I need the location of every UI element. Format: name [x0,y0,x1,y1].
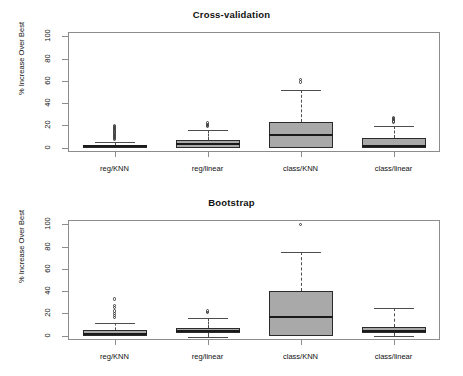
y-axis-tick-label: 0 [43,322,52,348]
y-axis-tick-label: 100 [43,211,52,237]
y-axis-tick [62,291,68,292]
x-axis-tick [115,152,116,157]
whisker-cap-upper [281,90,321,91]
plot-frame-cross-validation [68,32,440,152]
whisker-upper [301,90,302,122]
whisker-cap-upper [374,126,414,127]
y-axis-tick-label: 100 [43,23,52,49]
x-axis-label-class-linear: class/linear [349,164,439,173]
outlier-point [206,121,209,124]
outlier-point [113,309,116,312]
x-axis-label-reg-linear: reg/linear [163,352,253,361]
whisker-cap-upper [188,318,228,319]
y-axis-tick [62,148,68,149]
whisker-cap-lower [374,336,414,337]
whisker-cap-upper [95,142,135,143]
panel-cross-validation: Cross-validation % Increase Over Best 02… [0,0,463,188]
y-axis-tick [62,81,68,82]
x-axis-label-reg-linear: reg/linear [163,164,253,173]
x-axis-tick [208,340,209,345]
median-line [362,145,426,147]
x-axis-label-class-linear: class/linear [349,352,439,361]
x-axis-tick [115,340,116,345]
y-axis-tick [62,36,68,37]
y-axis-tick-label: 0 [43,134,52,160]
y-axis-tick [62,59,68,60]
plot-frame-bootstrap [68,220,440,340]
boxplot-figure: Cross-validation % Increase Over Best 02… [0,0,463,376]
whisker-upper [394,126,395,137]
median-line [269,134,333,136]
whisker-cap-upper [95,323,135,324]
x-axis-tick [208,152,209,157]
y-axis-tick-label: 40 [43,278,52,304]
box-iqr [269,291,333,335]
whisker-upper [208,318,209,328]
y-axis-label-bootstrap: % Increase Over Best [17,187,26,307]
panel-title-bootstrap: Bootstrap [0,197,463,208]
whisker-upper [208,130,209,140]
median-line [83,145,147,147]
y-axis-label-cross-validation: % Increase Over Best [17,0,26,119]
y-axis-tick [62,336,68,337]
y-axis-tick-label: 80 [43,45,52,71]
y-axis-tick [62,269,68,270]
whisker-cap-upper [188,130,228,131]
median-line [362,330,426,332]
y-axis-tick-label: 40 [43,90,52,116]
y-axis-tick-label: 20 [43,300,52,326]
whisker-cap-upper [281,252,321,253]
x-axis-label-reg-knn: reg/KNN [70,352,160,361]
x-axis-tick [394,340,395,345]
outlier-point [113,297,116,300]
x-axis-label-class-knn: class/KNN [256,352,346,361]
y-axis-tick [62,247,68,248]
x-axis-label-class-knn: class/KNN [256,164,346,173]
x-axis-label-reg-knn: reg/KNN [70,164,160,173]
panel-title-cross-validation: Cross-validation [0,9,463,20]
x-axis-tick [394,152,395,157]
y-axis-tick [62,125,68,126]
median-line [269,316,333,318]
median-line [176,330,240,332]
y-axis-tick [62,224,68,225]
x-axis-tick [301,152,302,157]
y-axis-tick-label: 20 [43,112,52,138]
y-axis-tick [62,313,68,314]
median-line [83,333,147,335]
x-axis-tick [301,340,302,345]
panel-bootstrap: Bootstrap % Increase Over Best 020406080… [0,188,463,376]
y-axis-tick-label: 80 [43,233,52,259]
median-line [176,143,240,145]
whisker-upper [394,308,395,327]
whisker-cap-lower [188,337,228,338]
whisker-cap-upper [374,308,414,309]
y-axis-tick [62,103,68,104]
whisker-upper [301,252,302,291]
outlier-point [206,309,209,312]
